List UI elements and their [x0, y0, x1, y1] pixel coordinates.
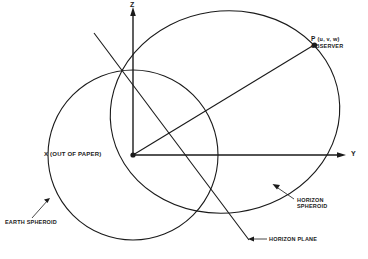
- horizon-plane-label: HORIZON PLANE: [269, 236, 317, 242]
- observer-point-symbol-row: P (u, v, w): [311, 35, 343, 42]
- earth-spheroid-leader-line: [32, 200, 48, 218]
- point-coordinates-label: (u, v, w): [318, 36, 340, 42]
- horizon-plane-leader-arrowhead: [248, 237, 254, 242]
- x-axis-label: X (OUT OF PAPER): [44, 151, 101, 158]
- observer-radius-line: [133, 45, 314, 155]
- horizon-spheroid-label: HORIZON SPHEROID: [297, 197, 327, 210]
- horizon-plane-line: [94, 33, 249, 240]
- earth-spheroid-leader-arrowhead: [44, 198, 50, 203]
- z-axis-label: Z: [130, 1, 134, 9]
- origin-point-marker: [130, 152, 135, 157]
- earth-spheroid-label: EARTH SPHEROID: [5, 219, 57, 225]
- horizon-spheroid-label-line2: SPHEROID: [297, 203, 327, 209]
- diagram-canvas: Z Y X (OUT OF PAPER) P (u, v, w) OBSERVE…: [0, 0, 368, 259]
- point-symbol-label: P: [311, 35, 316, 42]
- y-axis-label: Y: [351, 150, 356, 158]
- observer-role-label: OBSERVER: [311, 43, 343, 49]
- y-axis-arrowhead: [337, 152, 346, 158]
- observer-point-label: P (u, v, w) OBSERVER: [311, 35, 343, 50]
